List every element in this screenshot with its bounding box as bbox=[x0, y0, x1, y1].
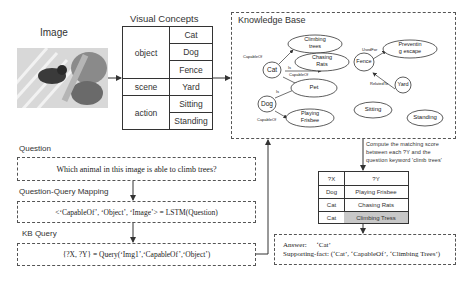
supporting-fact-label: Supporting-fact: bbox=[283, 250, 329, 258]
matching-score-note: Compute the matching score between each … bbox=[366, 140, 461, 164]
answer-line: Answer: ‘Cat’ bbox=[283, 241, 455, 250]
header-x: ?X bbox=[319, 172, 345, 185]
query-result-table: ?X ?Y Dog Playing Frisbee Cat Chasing Ra… bbox=[318, 171, 409, 224]
matching-note-line-1: Compute the matching score bbox=[366, 140, 461, 148]
question-title: Question bbox=[19, 144, 51, 153]
answer-box: Answer: ‘Cat’ Supporting-fact: (‘Cat’, ‘… bbox=[274, 234, 456, 265]
cell-x: Cat bbox=[319, 199, 345, 211]
header-y: ?Y bbox=[344, 172, 408, 185]
question-box: Which animal in this image is able to cl… bbox=[17, 157, 256, 181]
kb-query-text: {?X, ?Y} = Query(‘Img1’,‘CapableOf’,‘Obj… bbox=[63, 250, 211, 259]
table-row: Cat Chasing Rats bbox=[319, 198, 408, 211]
cell-y: Chasing Rats bbox=[344, 199, 408, 211]
supporting-fact-value: (‘Cat’, ‘CapableOf’, ‘Climbing Trees’) bbox=[331, 250, 440, 258]
table-row-highlighted: Cat Climbing Tress bbox=[319, 211, 408, 223]
table-row: Dog Playing Frisbee bbox=[319, 185, 408, 198]
mapping-box: <‘CapableOf’, ‘Object’, ‘Image’> = LSTM(… bbox=[17, 201, 256, 223]
answer-value: ‘Cat’ bbox=[316, 241, 330, 249]
kb-query-title: KB Query bbox=[22, 229, 57, 238]
kb-query-box: {?X, ?Y} = Query(‘Img1’,‘CapableOf’,‘Obj… bbox=[17, 243, 256, 266]
mapping-text: <‘CapableOf’, ‘Object’, ‘Image’> = LSTM(… bbox=[55, 208, 218, 217]
question-text: Which animal in this image is able to cl… bbox=[56, 165, 216, 174]
cell-x: Cat bbox=[319, 212, 345, 223]
cell-x: Dog bbox=[319, 186, 345, 198]
answer-label: Answer: bbox=[283, 241, 307, 249]
cell-y: Climbing Tress bbox=[344, 212, 408, 223]
mapping-title: Question-Query Mapping bbox=[19, 187, 108, 196]
cell-y: Playing Frisbee bbox=[344, 186, 408, 198]
result-header-row: ?X ?Y bbox=[319, 172, 408, 185]
supporting-fact-line: Supporting-fact: (‘Cat’, ‘CapableOf’, ‘C… bbox=[283, 250, 455, 259]
matching-note-line-3: question keyword 'climb trees' bbox=[366, 156, 461, 164]
matching-note-line-2: between each ?Y and the bbox=[366, 148, 461, 156]
